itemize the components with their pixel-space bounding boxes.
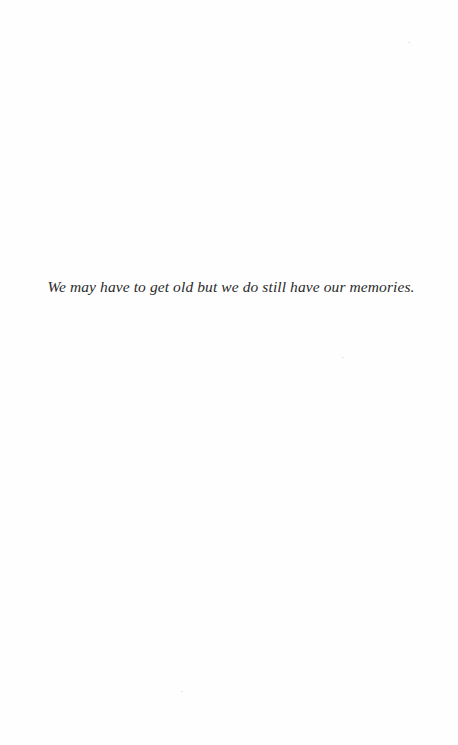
scan-speck [408,42,410,43]
scan-speck [342,357,344,358]
scan-speck [181,691,183,692]
book-page: We may have to get old but we do still h… [0,0,458,745]
epigraph-text: We may have to get old but we do still h… [0,278,458,296]
